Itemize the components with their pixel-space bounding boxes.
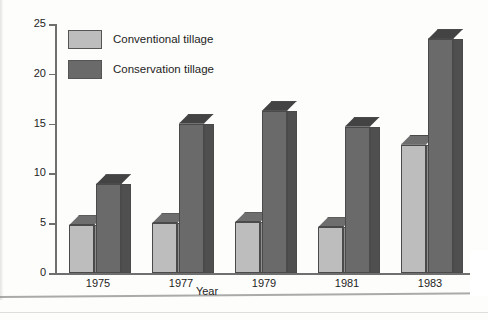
bar-1977-conservation[interactable]	[179, 124, 204, 273]
bar-front	[345, 127, 370, 273]
bar-front	[235, 222, 260, 273]
legend: Conventional tillage Conservation tillag…	[68, 27, 214, 87]
bar-side	[287, 111, 297, 273]
y-tick	[49, 74, 56, 76]
bar-front	[152, 223, 177, 273]
legend-label-conservation: Conservation tillage	[113, 63, 214, 75]
y-tick-label: 20	[34, 68, 46, 79]
scan-edge-left	[0, 0, 3, 300]
legend-swatch-conservation	[68, 60, 102, 79]
bar-front	[401, 145, 426, 273]
y-tick	[49, 124, 56, 126]
y-axis-line	[55, 24, 57, 273]
y-tick-label: 0	[40, 267, 46, 278]
figure-canvas: Nitrate nitrogen in drainage water (mg/L…	[0, 0, 488, 320]
bar-1979-conservation[interactable]	[262, 111, 287, 273]
bar-side	[121, 184, 131, 273]
legend-swatch-conventional	[68, 30, 102, 49]
y-tick-label: 5	[40, 217, 46, 228]
bar-front	[262, 111, 287, 273]
x-tick-label: 1975	[86, 277, 110, 289]
bar-1975-conventional[interactable]	[69, 225, 94, 273]
bar-group	[318, 24, 401, 273]
x-tick-label: 1977	[169, 277, 193, 289]
bar-side	[453, 39, 463, 273]
y-tick	[49, 24, 56, 26]
bar-side	[370, 127, 380, 273]
bar-top	[345, 117, 380, 127]
x-axis-line	[55, 273, 470, 275]
bar-1979-conventional[interactable]	[235, 222, 260, 273]
x-tick-label: 1979	[252, 277, 276, 289]
scan-edge-bottom	[0, 292, 488, 298]
y-tick	[49, 223, 56, 225]
y-tick-label: 25	[34, 18, 46, 29]
x-tick-label: 1983	[418, 277, 442, 289]
bar-1975-conservation[interactable]	[96, 184, 121, 273]
bar-top	[179, 114, 214, 124]
bar-front	[428, 39, 453, 273]
legend-item-conventional: Conventional tillage	[68, 27, 214, 51]
bar-front	[96, 184, 121, 273]
bar-top	[428, 29, 463, 39]
y-tick-label: 15	[34, 118, 46, 129]
legend-label-conventional: Conventional tillage	[113, 33, 213, 45]
bar-group	[401, 24, 484, 273]
scan-edge-bottom-secondary	[0, 312, 488, 313]
legend-item-conservation: Conservation tillage	[68, 57, 214, 81]
bar-1983-conventional[interactable]	[401, 145, 426, 273]
bar-front	[318, 227, 343, 273]
bar-1981-conventional[interactable]	[318, 227, 343, 273]
bar-1977-conventional[interactable]	[152, 223, 177, 273]
bar-side	[204, 124, 214, 273]
y-tick	[49, 173, 56, 175]
y-tick	[49, 273, 56, 275]
bar-front	[69, 225, 94, 273]
bar-top	[262, 101, 297, 111]
bar-1983-conservation[interactable]	[428, 39, 453, 273]
x-axis-title: Year	[196, 285, 218, 297]
bar-top	[96, 174, 131, 184]
bar-1981-conservation[interactable]	[345, 127, 370, 273]
bar-group	[235, 24, 318, 273]
bar-front	[179, 124, 204, 273]
y-tick-label: 10	[34, 167, 46, 178]
x-tick-label: 1981	[335, 277, 359, 289]
